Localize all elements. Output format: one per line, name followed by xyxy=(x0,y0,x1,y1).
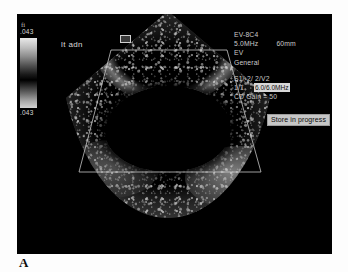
store-in-progress-banner: Store in progress xyxy=(267,114,330,126)
cd-gain-value: CD Gain = 50 xyxy=(234,92,326,101)
grayscale-gradient-strip xyxy=(20,38,37,108)
frame-and-doppler-row: 1/1 6.0/6.0MHz xyxy=(234,83,326,92)
doppler-frequency-highlight[interactable]: 6.0/6.0MHz xyxy=(254,83,290,92)
image-annotation-label: lt adn xyxy=(61,40,83,49)
frame-index: 1/1 xyxy=(234,84,244,91)
anechoic-cyst-region xyxy=(105,86,231,172)
figure-container: lt adn fi .043 .043 EV-8C4 5.0MHz 60mm E… xyxy=(0,0,348,272)
figure-panel-letter: A xyxy=(19,256,28,269)
probe-model: EV-8C4 xyxy=(234,30,326,39)
settings-line: S1/-2/ 2/V2 xyxy=(234,74,326,83)
preset-name: General xyxy=(234,58,326,67)
frequency-value: 5.0MHz xyxy=(234,40,258,47)
orientation-marker-icon xyxy=(120,35,131,43)
grayscale-bottom-value: .043 xyxy=(19,110,53,117)
preset-short: EV xyxy=(234,48,326,57)
frequency-depth-row: 5.0MHz 60mm xyxy=(234,39,326,48)
parameter-panel: EV-8C4 5.0MHz 60mm EV General S1/-2/ 2/V… xyxy=(234,30,326,101)
grayscale-top-value: .043 xyxy=(19,29,53,36)
ultrasound-screen: lt adn fi .043 .043 EV-8C4 5.0MHz 60mm E… xyxy=(17,14,332,254)
param-spacer xyxy=(234,67,326,74)
depth-value: 60mm xyxy=(276,39,295,48)
grayscale-reference-bar: fi .043 .043 xyxy=(19,22,53,116)
